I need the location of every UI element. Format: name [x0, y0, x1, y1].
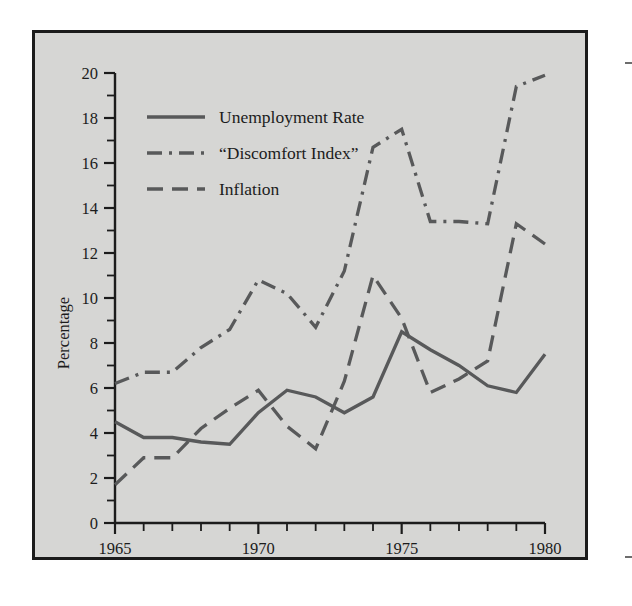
chart-figure: 02468101214161820 1965197019751980 Perce…	[0, 0, 632, 606]
page-edge-rule-top	[625, 62, 632, 64]
y-tick-label: 4	[90, 424, 98, 443]
y-tick-label: 20	[82, 64, 99, 83]
series-lines	[115, 75, 545, 485]
y-tick-label: 6	[90, 379, 98, 398]
page-edge-rule-bottom	[625, 556, 632, 558]
y-tick-label: 0	[90, 514, 98, 533]
x-tick-label: 1965	[99, 539, 132, 557]
y-tick-label: 14	[82, 199, 99, 218]
x-tick-label: 1970	[242, 539, 275, 557]
y-tick-label: 12	[82, 244, 99, 263]
legend: Unemployment Rate“Discomfort Index”Infla…	[147, 107, 365, 199]
y-tick-label: 8	[90, 334, 98, 353]
x-tick-label: 1980	[529, 539, 562, 557]
y-axis: 02468101214161820	[82, 64, 116, 533]
line-chart: 02468101214161820 1965197019751980 Perce…	[35, 33, 585, 557]
legend-label-1: “Discomfort Index”	[219, 143, 358, 163]
x-axis: 1965197019751980	[99, 523, 562, 557]
y-tick-label: 10	[82, 289, 99, 308]
legend-label-0: Unemployment Rate	[219, 107, 365, 127]
y-tick-label: 16	[82, 154, 99, 173]
y-tick-label: 18	[82, 109, 99, 128]
y-tick-label: 2	[90, 469, 98, 488]
series-line-2	[115, 224, 545, 485]
y-axis-title: Percentage	[54, 297, 73, 369]
legend-label-2: Inflation	[219, 179, 280, 199]
plot-frame: 02468101214161820 1965197019751980 Perce…	[32, 30, 588, 560]
series-line-0	[115, 332, 545, 445]
x-tick-label: 1975	[385, 539, 418, 557]
